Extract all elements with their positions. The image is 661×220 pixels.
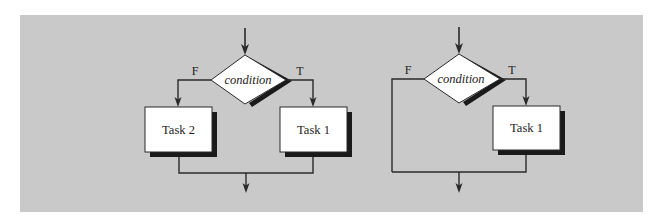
false-label: F xyxy=(405,63,412,77)
task-2-label: Task 2 xyxy=(162,123,195,137)
task-1-label: Task 1 xyxy=(297,123,330,137)
true-label: T xyxy=(508,63,516,77)
condition-label: condition xyxy=(224,73,271,87)
task-1-label: Task 1 xyxy=(510,121,543,135)
false-label: F xyxy=(192,64,199,78)
condition-label: condition xyxy=(437,72,484,86)
true-label: T xyxy=(296,64,304,78)
flowchart-figure: condition F T Task 2 Task 1 conditi xyxy=(0,0,661,220)
